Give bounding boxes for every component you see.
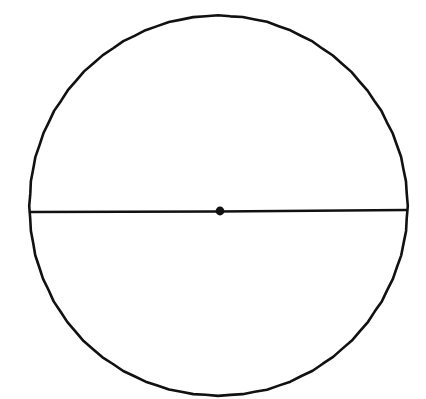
center-point-dot — [216, 207, 225, 216]
background-rect — [0, 0, 426, 399]
figure-canvas — [0, 0, 426, 399]
circle-diagram-svg — [0, 0, 426, 399]
